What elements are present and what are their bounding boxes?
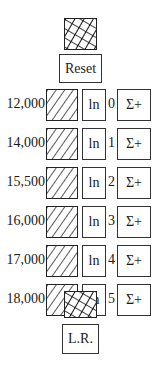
sigma-plus-button[interactable]: Σ+	[117, 128, 151, 160]
ln-label: ln	[89, 175, 100, 191]
ln-button[interactable]: ln	[82, 167, 106, 199]
diagonal-hatch-icon	[46, 128, 78, 160]
register-index: 0	[108, 96, 115, 112]
ln-label: ln	[89, 253, 100, 269]
register-index: 2	[108, 174, 115, 190]
diagonal-hatch-icon	[46, 245, 78, 277]
sigma-plus-button[interactable]: Σ+	[117, 206, 151, 238]
ln-button[interactable]: ln	[82, 206, 106, 238]
register-index: 1	[108, 135, 115, 151]
sigma-plus-button[interactable]: Σ+	[117, 89, 151, 121]
diagonal-hatch-icon	[46, 89, 78, 121]
register-value: 15,500	[7, 174, 46, 190]
sigma-plus-label: Σ+	[126, 97, 142, 113]
sigma-plus-label: Σ+	[126, 292, 142, 308]
crosshatch-key-icon	[64, 291, 97, 318]
ln-button[interactable]: ln	[82, 245, 106, 277]
register-value: 12,000	[7, 96, 46, 112]
sigma-plus-label: Σ+	[126, 136, 142, 152]
ln-label: ln	[89, 136, 100, 152]
register-index: 3	[108, 213, 115, 229]
ln-button[interactable]: ln	[82, 89, 106, 121]
ln-button[interactable]: ln	[82, 128, 106, 160]
linear-regression-button[interactable]: L.R.	[62, 324, 99, 354]
register-index: 4	[108, 252, 115, 268]
register-value: 17,000	[7, 252, 46, 268]
register-index: 5	[108, 291, 115, 307]
sigma-plus-label: Σ+	[126, 253, 142, 269]
sigma-plus-button[interactable]: Σ+	[117, 167, 151, 199]
reset-button[interactable]: Reset	[59, 54, 102, 83]
crosshatch-key-icon	[64, 18, 97, 50]
register-value: 16,000	[7, 213, 46, 229]
register-value: 18,000	[7, 291, 46, 307]
sigma-plus-label: Σ+	[126, 175, 142, 191]
reset-label: Reset	[65, 61, 96, 77]
diagonal-hatch-icon	[46, 206, 78, 238]
lr-label: L.R.	[68, 331, 93, 347]
sigma-plus-label: Σ+	[126, 214, 142, 230]
sigma-plus-button[interactable]: Σ+	[117, 284, 151, 316]
sigma-plus-button[interactable]: Σ+	[117, 245, 151, 277]
register-value: 14,000	[7, 135, 46, 151]
ln-label: ln	[89, 97, 100, 113]
ln-label: ln	[89, 214, 100, 230]
diagonal-hatch-icon	[46, 167, 78, 199]
